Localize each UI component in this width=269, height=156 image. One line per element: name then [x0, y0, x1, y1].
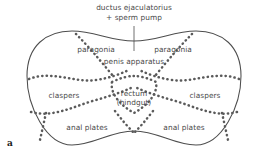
label-anal-plates-right: anal plates: [163, 123, 204, 132]
label-sperm-pump: + sperm pump: [106, 13, 162, 22]
label-rectum: rectum: [121, 89, 148, 98]
label-paragonia-left: paragonia: [77, 45, 115, 54]
label-paragonia-right: paragonia: [154, 45, 192, 54]
label-claspers-left: claspers: [48, 91, 79, 100]
panel-letter: a: [7, 138, 13, 148]
anatomical-diagram: [0, 0, 269, 156]
label-anal-plates-left: anal plates: [66, 123, 107, 132]
label-penis-apparatus: penis apparatus: [104, 57, 164, 66]
label-claspers-right: claspers: [189, 91, 220, 100]
figure-panel-a: ductus ejaculatorius + sperm pump parago…: [0, 0, 269, 156]
label-hindgut: (hindgut): [117, 98, 152, 107]
label-ductus-ejaculatorius: ductus ejaculatorius: [96, 3, 172, 12]
